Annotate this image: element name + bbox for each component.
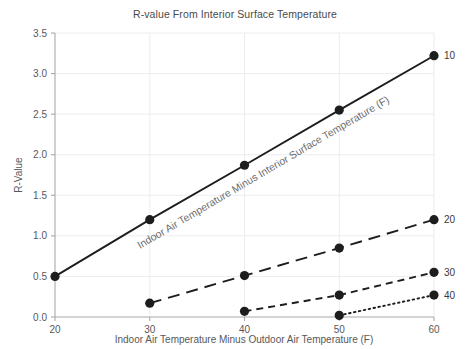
x-axis-ticks: 2030405060 [49, 317, 440, 335]
data-point-10 [145, 215, 154, 224]
data-point-40 [335, 311, 344, 320]
data-point-10 [50, 272, 59, 281]
series-line-20 [150, 220, 434, 304]
x-axis-title: Indoor Air Temperature Minus Outdoor Air… [115, 334, 374, 345]
chart-plot-area: 0.00.51.01.52.02.53.03.5 2030405060 1020… [0, 0, 470, 349]
data-point-10 [429, 51, 438, 60]
data-point-30 [240, 307, 249, 316]
data-point-20 [335, 243, 344, 252]
y-tick-label: 2.5 [33, 109, 47, 120]
series-end-labels: 10203040 [444, 50, 456, 300]
diagonal-annotation: Indoor Air Temperature Minus Interior Su… [135, 93, 391, 251]
chart-container: R-value From Interior Surface Temperatur… [0, 0, 470, 349]
data-point-10 [240, 161, 249, 170]
y-tick-label: 2.0 [33, 149, 47, 160]
data-point-30 [335, 290, 344, 299]
y-tick-label: 0.0 [33, 312, 47, 323]
data-point-20 [429, 215, 438, 224]
y-tick-label: 0.5 [33, 271, 47, 282]
data-point-30 [429, 268, 438, 277]
series-label-40: 40 [444, 290, 456, 301]
data-point-20 [240, 271, 249, 280]
series-label-30: 30 [444, 267, 456, 278]
series-label-10: 10 [444, 50, 456, 61]
y-tick-label: 1.5 [33, 190, 47, 201]
series-label-20: 20 [444, 214, 456, 225]
data-point-10 [335, 105, 344, 114]
y-axis-title: R-Value [13, 157, 24, 193]
x-tick-label: 20 [49, 324, 61, 335]
x-tick-label: 60 [428, 324, 440, 335]
y-tick-label: 3.0 [33, 68, 47, 79]
data-point-20 [145, 299, 154, 308]
y-tick-label: 1.0 [33, 230, 47, 241]
data-point-40 [429, 290, 438, 299]
series-line-40 [339, 295, 434, 315]
y-tick-label: 3.5 [33, 28, 47, 39]
